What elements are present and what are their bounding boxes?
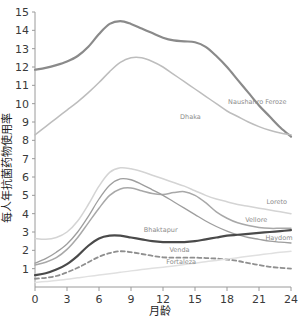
y-tick-label: 4 — [22, 208, 29, 221]
y-tick-label: 2 — [22, 244, 29, 257]
y-tick-label: 7 — [22, 153, 29, 166]
x-tick-label: 21 — [252, 293, 266, 306]
series-label-vellore: Vellore — [245, 216, 267, 224]
y-tick-label: 11 — [15, 79, 29, 92]
x-tick-label: 15 — [188, 293, 202, 306]
series-label-naushahro-feroze: Naushahro Feroze — [228, 98, 286, 106]
y-axis-ticks: 123456789101112131415 — [15, 6, 35, 276]
series-label-haydom: Haydom — [265, 234, 292, 242]
x-tick-label: 9 — [128, 293, 135, 306]
x-tick-label: 18 — [220, 293, 234, 306]
x-tick-label: 0 — [32, 293, 39, 306]
series-label-dhaka: Dhaka — [180, 113, 201, 121]
x-tick-label: 6 — [96, 293, 103, 306]
y-tick-label: 3 — [22, 226, 29, 239]
x-axis-ticks: 03691215182124 — [32, 287, 299, 306]
x-tick-label: 24 — [284, 293, 298, 306]
y-tick-label: 6 — [22, 171, 29, 184]
y-tick-label: 8 — [22, 134, 29, 147]
series-labels: Naushahro FerozeDhakaLoretoVelloreBhakta… — [144, 98, 293, 266]
x-axis-title: 月龄 — [149, 304, 171, 318]
series-label-bhaktapur: Bhaktapur — [144, 226, 178, 234]
antibiotic-use-line-chart: 123456789101112131415 03691215182124 Nau… — [0, 0, 298, 321]
y-tick-label: 12 — [15, 61, 29, 74]
y-tick-label: 15 — [15, 6, 29, 19]
series-line-dhaka — [35, 57, 291, 135]
chart-canvas: 123456789101112131415 03691215182124 Nau… — [0, 0, 298, 321]
x-tick-label: 3 — [64, 293, 71, 306]
series-line-naushahro-feroze — [35, 21, 291, 137]
y-tick-label: 10 — [15, 98, 29, 111]
y-tick-label: 13 — [15, 43, 29, 56]
y-tick-label: 9 — [22, 116, 29, 129]
y-tick-label: 5 — [22, 189, 29, 202]
series-line-fortaleza — [35, 251, 291, 282]
series-label-loreto: Loreto — [266, 198, 287, 206]
series-lines — [35, 21, 291, 282]
y-tick-label: 14 — [15, 24, 29, 37]
y-tick-label: 1 — [22, 263, 29, 276]
y-axis-title: 每人年抗菌药物使用率 — [0, 113, 14, 223]
series-label-fortaleza: Fortaleza — [166, 258, 196, 266]
series-label-venda: Venda — [169, 246, 189, 254]
